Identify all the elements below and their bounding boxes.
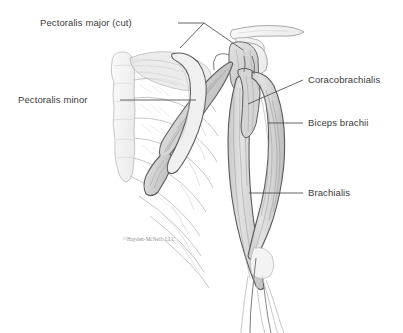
pectoralis-minor-inferior-edge [144, 154, 173, 196]
label-pectoralis-major: Pectoralis major (cut) [40, 17, 132, 28]
rib-10 [162, 238, 209, 288]
sternum-bone [111, 52, 135, 182]
label-brachialis: Brachialis [308, 187, 350, 198]
rib-7 [130, 176, 200, 236]
anatomy-figure: Pectoralis major (cut) Pectoralis minor … [0, 0, 403, 333]
label-coracobrachialis: Coracobrachialis [308, 74, 380, 85]
forearm-muscle-taper-2 [241, 276, 248, 333]
label-pectoralis-minor: Pectoralis minor [18, 94, 88, 105]
rib-9 [150, 216, 204, 272]
rib-8 [139, 196, 201, 256]
forearm-bone-radius [262, 276, 278, 333]
anatomy-illustration [0, 0, 403, 333]
leader-pectoralis-major-b [180, 23, 204, 48]
label-biceps-brachii: Biceps brachii [308, 117, 368, 128]
arm-muscle-group [228, 56, 285, 333]
copyright-credit: ©Hayden-McNeil, LLC [123, 236, 175, 242]
